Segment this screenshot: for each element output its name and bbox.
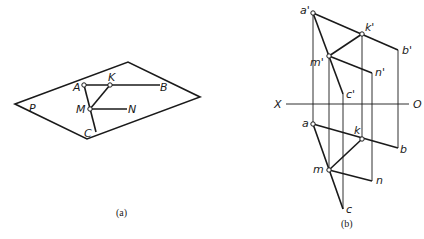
label-k-prime: k' — [365, 21, 374, 34]
top-line-mk — [329, 139, 362, 170]
top-point-a — [311, 122, 315, 126]
label-B: B — [160, 81, 168, 94]
front-point-m — [327, 54, 331, 58]
label-axis-x: X — [273, 98, 282, 111]
caption-b: (b) — [341, 218, 353, 230]
label-plane-p: P — [29, 102, 36, 115]
front-point-k — [360, 32, 364, 36]
figure-b: X O a' k' b' m' n' c' a k b m n c (b) — [273, 4, 422, 230]
front-line-ab — [313, 13, 398, 50]
label-n: n — [376, 174, 383, 187]
point-m — [88, 107, 92, 111]
label-c: c — [346, 203, 352, 216]
label-a: a — [302, 117, 309, 130]
label-k: k — [354, 124, 361, 137]
front-line-mn — [329, 56, 372, 73]
diagram-canvas: P A K B M N C (a) X O a' k' b' m' n' c' — [0, 0, 424, 239]
label-K: K — [108, 71, 116, 84]
label-m: m — [313, 163, 324, 176]
label-N: N — [128, 103, 136, 116]
label-n-prime: n' — [375, 66, 385, 79]
label-m-prime: m' — [310, 56, 324, 69]
label-C: C — [84, 127, 92, 140]
front-point-a — [311, 11, 315, 15]
label-M: M — [76, 103, 86, 116]
label-axis-o: O — [413, 98, 422, 111]
front-line-mk — [329, 34, 362, 56]
label-b-prime: b' — [402, 44, 412, 57]
line-mk — [90, 85, 110, 109]
top-point-m — [327, 168, 331, 172]
figure-a: P A K B M N C (a) — [15, 62, 200, 219]
label-b: b — [400, 143, 407, 156]
top-line-mn — [329, 170, 372, 181]
caption-a: (a) — [116, 207, 127, 219]
label-A: A — [72, 81, 81, 94]
point-a — [82, 83, 86, 87]
top-point-k — [360, 137, 364, 141]
label-a-prime: a' — [300, 4, 310, 17]
label-c-prime: c' — [346, 88, 355, 101]
